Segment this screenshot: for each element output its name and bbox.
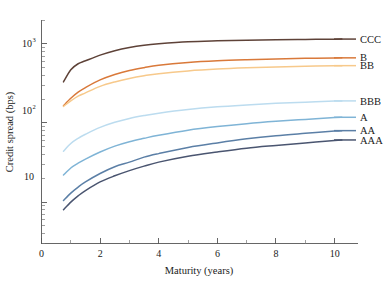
legend-label-ccc: CCC [360, 34, 381, 45]
legend-label-a: A [360, 112, 368, 123]
x-tick-label-10: 10 [330, 248, 340, 259]
y-tick-label-1000: 10 [22, 38, 32, 49]
chart-figure: 10 10 2 10 3 0 2 4 6 8 10 Maturity (year… [0, 0, 392, 287]
y-axis-title: Credit spread (bps) [4, 91, 16, 172]
x-tick-label-8: 8 [274, 248, 279, 259]
y-tick-label-100-exponent: 2 [33, 103, 36, 110]
y-tick-label-100: 10 [22, 105, 32, 116]
credit-spread-line-chart: 10 10 2 10 3 0 2 4 6 8 10 Maturity (year… [0, 0, 392, 287]
y-tick-label-10: 10 [24, 171, 34, 182]
legend-label-bb: BB [360, 60, 374, 71]
x-tick-label-6: 6 [215, 248, 220, 259]
y-tick-label-1000-exponent: 3 [33, 36, 36, 43]
x-tick-label-2: 2 [98, 248, 103, 259]
x-tick-label-4: 4 [156, 248, 161, 259]
x-axis-title: Maturity (years) [165, 265, 234, 277]
legend-label-bbb: BBB [360, 96, 381, 107]
legend-label-aaa: AAA [360, 135, 383, 146]
x-tick-label-0: 0 [39, 248, 44, 259]
